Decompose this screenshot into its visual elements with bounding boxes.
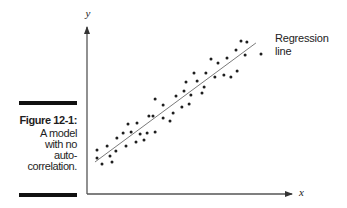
scatter-points xyxy=(96,39,263,165)
scatter-point xyxy=(96,157,99,160)
scatter-point xyxy=(130,131,133,134)
scatter-point xyxy=(169,120,172,123)
scatter-point xyxy=(235,49,238,52)
scatter-point xyxy=(172,112,175,115)
scatter-point xyxy=(226,56,229,59)
scatter-point xyxy=(147,115,150,118)
scatter-point xyxy=(115,136,118,139)
regression-line xyxy=(95,43,256,162)
scatter-point xyxy=(203,86,206,89)
scatter-point xyxy=(236,70,239,73)
scatter-point xyxy=(204,72,207,75)
scatter-point xyxy=(125,145,128,148)
scatter-point xyxy=(109,155,112,158)
scatter-point xyxy=(189,93,192,96)
scatter-point xyxy=(229,76,232,79)
scatter-point xyxy=(139,133,142,136)
scatter-point xyxy=(245,41,248,44)
scatter-point xyxy=(196,80,199,83)
scatter-point xyxy=(106,145,109,148)
scatter-point xyxy=(188,103,191,106)
scatter-point xyxy=(183,90,186,93)
scatter-point xyxy=(213,76,216,79)
scatter-point xyxy=(210,58,213,61)
scatter-point xyxy=(127,123,130,126)
y-axis-label: y xyxy=(85,7,91,19)
scatter-point xyxy=(154,131,157,134)
scatter-point xyxy=(222,74,225,77)
scatter-point xyxy=(122,131,125,134)
scatter-point xyxy=(154,98,157,101)
regression-line-label: Regression xyxy=(275,32,329,44)
scatter-point xyxy=(111,161,114,164)
scatter-chart: y x Regression line xyxy=(0,0,347,208)
scatter-point xyxy=(101,163,104,166)
scatter-point xyxy=(217,61,220,64)
scatter-point xyxy=(240,39,243,42)
scatter-point xyxy=(260,53,263,56)
scatter-point xyxy=(244,54,247,57)
scatter-point xyxy=(136,122,139,125)
scatter-point xyxy=(185,81,188,84)
scatter-point xyxy=(143,139,146,142)
scatter-point xyxy=(162,117,165,120)
scatter-point xyxy=(135,141,138,144)
scatter-point xyxy=(152,115,155,118)
scatter-point xyxy=(193,72,196,75)
scatter-point xyxy=(175,95,178,98)
x-axis-label: x xyxy=(298,186,304,198)
scatter-point xyxy=(201,92,204,95)
scatter-point xyxy=(146,131,149,134)
scatter-point xyxy=(114,150,117,153)
scatter-point xyxy=(180,106,183,109)
regression-line-label: line xyxy=(275,45,291,57)
scatter-point xyxy=(162,104,165,107)
scatter-point xyxy=(96,149,99,152)
